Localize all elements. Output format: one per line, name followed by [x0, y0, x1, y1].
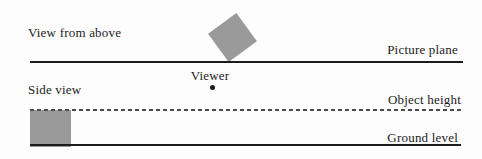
perspective-diagram: View from above Picture plane Viewer Sid…	[0, 0, 482, 159]
view-from-above-label: View from above	[28, 26, 121, 40]
object-height-line	[30, 109, 461, 111]
side-view-label: Side view	[28, 83, 81, 97]
picture-plane-label: Picture plane	[387, 43, 458, 57]
ground-level-label: Ground level	[387, 131, 458, 145]
picture-plane-line	[30, 61, 463, 63]
viewer-dot	[210, 85, 215, 90]
viewer-label: Viewer	[186, 69, 234, 83]
object-height-label: Object height	[388, 93, 461, 107]
object-top-view-square	[208, 13, 257, 62]
object-side-view-rectangle	[30, 110, 71, 147]
